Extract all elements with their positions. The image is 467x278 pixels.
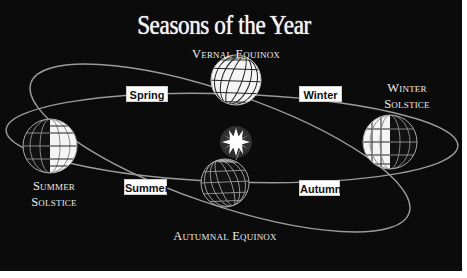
winter-solstice-line1: Winter — [367, 80, 447, 96]
summer-solstice-label: Summer Solstice — [14, 178, 94, 210]
season-label-spring: Spring — [126, 86, 168, 102]
season-label-summer: Summer — [124, 179, 167, 195]
winter-solstice-line2: Solstice — [367, 96, 447, 112]
earth-globe-winter-icon — [362, 115, 418, 169]
diagram-title: Seasons of the Year — [31, 10, 416, 41]
season-label-winter: Winter — [299, 86, 342, 102]
winter-solstice-label: Winter Solstice — [367, 80, 447, 112]
earth-globe-summer-icon — [22, 119, 78, 173]
diagram-panel: Seasons of the Year Vernal Equinox Winte… — [0, 0, 462, 271]
season-label-autumn: Autumn — [299, 180, 340, 196]
autumnal-equinox-label: Autumnal Equinox — [160, 228, 290, 244]
summer-solstice-line2: Solstice — [14, 194, 94, 210]
sun-icon — [220, 126, 252, 158]
vernal-equinox-label: Vernal Equinox — [176, 46, 296, 62]
summer-solstice-line1: Summer — [14, 178, 94, 194]
